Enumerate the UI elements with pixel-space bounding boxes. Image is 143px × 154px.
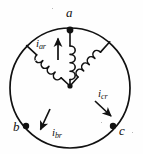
scan-speck [35,60,36,61]
current-subscript-ibr: br [55,131,62,140]
terminal-node-b [23,123,29,129]
terminal-node-c [110,123,116,129]
terminal-label-b: b [13,120,20,133]
current-arrow-icr [95,101,111,116]
three-phase-wye-diagram: a b c iar ibr icr [0,0,143,154]
scan-speck [101,122,102,123]
terminal-label-a: a [66,6,73,19]
neutral-node [67,83,72,88]
winding-a [70,30,75,86]
winding-c [23,46,70,90]
terminal-node-a [67,27,74,34]
current-label-icr: icr [98,88,107,99]
current-label-iar: iar [36,38,46,49]
current-subscript-iar: ar [39,42,46,51]
current-arrow-ibr [41,109,51,130]
scan-speck [52,8,53,9]
current-label-ibr: ibr [52,127,62,138]
terminal-label-c: c [119,124,125,137]
scan-speck [132,132,133,133]
current-subscript-icr: cr [101,92,107,101]
